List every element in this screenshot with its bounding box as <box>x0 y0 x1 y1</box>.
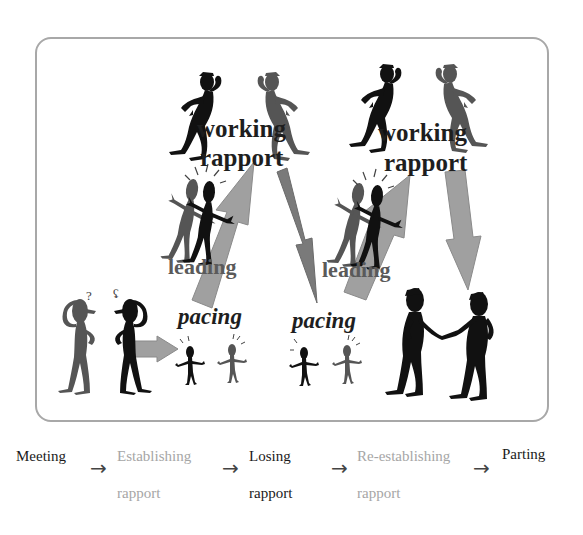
working-label-2: working <box>378 120 467 145</box>
step-label-line2: rapport <box>357 486 400 501</box>
leading-label-2: leading <box>322 259 390 281</box>
step-label: Meeting <box>16 448 66 464</box>
handshake-figures-icon <box>385 288 494 401</box>
working-label-1: working <box>197 116 286 141</box>
excited-figures-icon-2 <box>289 335 362 386</box>
step-label: Losing <box>249 448 291 464</box>
timeline-arrow-icon: → <box>331 458 348 478</box>
timeline-arrow-icon: → <box>222 458 239 478</box>
step-label: Parting <box>502 446 545 462</box>
step-label: Establishing <box>117 448 191 464</box>
excited-figures-icon <box>175 334 247 385</box>
timeline-step-establishing: Establishing rapport <box>117 449 191 464</box>
parting-down-arrow <box>445 170 481 290</box>
step-label: Re-establishing <box>357 448 450 464</box>
leading-label-1: leading <box>168 256 236 278</box>
timeline-arrow-icon: → <box>473 458 490 478</box>
timeline-step-reestablishing: Re-establishing rapport <box>357 449 450 464</box>
rapport-diagram: ? ʢ working rapport working rapport lead… <box>0 0 583 535</box>
pacing-label-1: pacing <box>178 305 242 328</box>
timeline-arrow-icon: → <box>90 458 107 478</box>
svg-text:ʢ: ʢ <box>113 286 119 301</box>
diagram-artwork: ? ʢ <box>0 0 583 535</box>
meeting-to-pacing-arrow <box>133 336 178 362</box>
losing-down-arrow <box>277 168 317 303</box>
rapport-label-1: rapport <box>200 145 283 170</box>
svg-text:?: ? <box>86 288 92 303</box>
timeline-step-losing: Losing rapport <box>249 449 291 464</box>
pacing-label-2: pacing <box>292 309 356 332</box>
timeline-step-parting: Parting <box>502 447 545 462</box>
rapport-label-2: rapport <box>384 150 467 175</box>
step-label-line2: rapport <box>117 486 160 501</box>
step-label-line2: rapport <box>249 486 292 501</box>
timeline-step-meeting: Meeting <box>16 449 66 464</box>
